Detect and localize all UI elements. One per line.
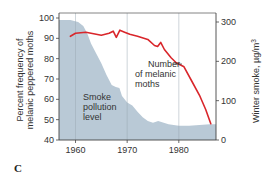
x-tick-label: 1960 xyxy=(66,145,86,155)
panel-label: C xyxy=(14,162,22,174)
left-tick-label: 90 xyxy=(44,33,54,43)
left-axis-ticks: 405060708090100 xyxy=(39,13,59,145)
svg-text:level: level xyxy=(83,112,102,122)
right-axis-ticks: 0100200300 xyxy=(216,17,236,145)
left-axis-label-line1: Percent frequency of xyxy=(15,38,25,122)
svg-text:of melanic: of melanic xyxy=(135,69,177,79)
left-axis-label-line2: melanic peppered moths xyxy=(25,30,35,129)
left-tick-label: 40 xyxy=(44,135,54,145)
svg-text:moths: moths xyxy=(135,79,160,89)
svg-text:Smoke: Smoke xyxy=(83,92,111,102)
right-tick-label: 100 xyxy=(221,96,236,106)
right-tick-label: 300 xyxy=(221,17,236,27)
x-tick-label: 1980 xyxy=(169,145,189,155)
pepper-moth-chart: 405060708090100 0100200300 196019701980 … xyxy=(0,0,271,184)
right-axis-label: Winter smoke, µg/m3 xyxy=(250,39,262,123)
x-tick-label: 1970 xyxy=(117,145,137,155)
right-tick-label: 200 xyxy=(221,56,236,66)
svg-text:pollution: pollution xyxy=(83,102,117,112)
x-axis-ticks: 196019701980 xyxy=(66,140,189,155)
left-tick-label: 70 xyxy=(44,74,54,84)
left-tick-label: 100 xyxy=(39,13,54,23)
right-tick-label: 0 xyxy=(221,135,226,145)
left-tick-label: 50 xyxy=(44,115,54,125)
left-tick-label: 60 xyxy=(44,94,54,104)
left-tick-label: 80 xyxy=(44,54,54,64)
